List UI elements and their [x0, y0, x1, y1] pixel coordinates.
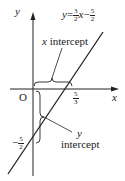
y-intercept-value: −52	[12, 136, 24, 151]
x-axis-label: x	[112, 92, 117, 103]
origin-label: O	[19, 92, 27, 103]
y-axis-label: y	[15, 6, 20, 17]
eq-constant: 52	[90, 8, 96, 23]
x-intercept-pointer	[52, 48, 62, 78]
x-intercept-value: 53	[73, 91, 79, 106]
y-intercept-pointer	[44, 117, 72, 132]
line-equation: y=32x−52	[62, 8, 95, 23]
x-intercept-label: x intercept	[42, 36, 88, 47]
y-axis-arrow-icon	[31, 12, 36, 20]
function-line	[8, 32, 103, 174]
y-intercept-brace	[36, 91, 44, 143]
x-intercept-brace	[34, 78, 72, 86]
y-intercept-label-word: intercept	[61, 139, 99, 150]
